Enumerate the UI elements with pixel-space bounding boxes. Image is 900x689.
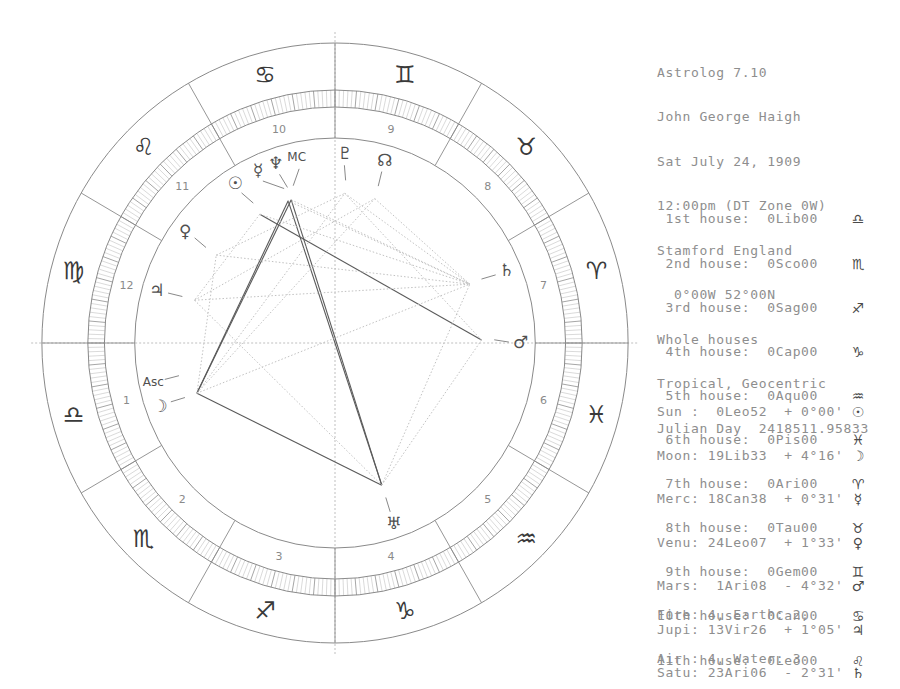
- degree-tick: [406, 567, 411, 583]
- degree-tick: [440, 553, 448, 568]
- degree-tick: [539, 224, 554, 232]
- aspect-line-semisquare: [195, 214, 260, 300]
- degree-tick: [347, 579, 348, 596]
- fire-earth-count: Fire: 4, Earth: 2,: [657, 608, 844, 623]
- degree-tick: [157, 507, 169, 519]
- degree-tick: [119, 457, 134, 465]
- degree-tick: [200, 131, 209, 145]
- degree-tick: [440, 118, 448, 133]
- aspect-line-quintile: [382, 340, 482, 485]
- degree-tick: [143, 492, 156, 503]
- venus-icon: ♀: [179, 221, 191, 241]
- taurus-icon: ♉: [516, 133, 538, 161]
- degree-tick: [517, 488, 530, 498]
- aspect-line-minor: [375, 199, 470, 285]
- leo-icon: ♌: [133, 133, 155, 161]
- libra-icon: ♎: [63, 401, 85, 429]
- ascendant-pointer-line: [165, 376, 179, 380]
- degree-tick: [146, 180, 159, 191]
- degree-tick: [170, 155, 181, 168]
- sun-icon: ☉: [850, 405, 866, 420]
- degree-tick: [263, 101, 268, 117]
- degree-tick: [363, 92, 365, 109]
- degree-tick: [123, 213, 137, 222]
- degree-tick: [474, 141, 484, 155]
- degree-tick: [133, 198, 147, 208]
- degree-tick: [565, 330, 582, 331]
- degree-tick: [447, 122, 455, 137]
- degree-tick: [130, 202, 144, 212]
- house-number-12: 12: [119, 279, 133, 292]
- aquarius-icon: ♒: [516, 525, 538, 553]
- degree-tick: [533, 213, 547, 222]
- degree-tick: [528, 205, 542, 214]
- uranus-icon: ♅: [386, 513, 401, 533]
- degree-tick: [402, 101, 407, 117]
- degree-tick: [355, 91, 356, 108]
- degree-tick: [379, 95, 382, 112]
- degree-tick: [179, 526, 189, 539]
- degree-tick: [138, 191, 151, 201]
- degree-tick: [347, 90, 348, 107]
- scorpio-icon: ♏: [850, 257, 866, 272]
- degree-tick: [130, 475, 144, 485]
- degree-tick: [166, 516, 177, 528]
- planet-row: Moon: 19Lib33 + 4°16'☽: [657, 449, 844, 464]
- degree-tick: [489, 518, 500, 531]
- pluto-icon: ♇: [337, 143, 352, 163]
- degree-tick: [91, 303, 107, 306]
- degree-tick: [489, 155, 500, 168]
- degree-tick: [537, 220, 552, 228]
- degree-tick: [461, 131, 470, 145]
- degree-tick: [509, 177, 522, 188]
- house-number-3: 3: [276, 550, 283, 563]
- degree-tick: [533, 465, 547, 474]
- degree-tick: [91, 380, 107, 383]
- degree-tick: [504, 504, 516, 516]
- house-number-5: 5: [484, 493, 491, 506]
- house-number-10: 10: [272, 123, 286, 136]
- degree-tick: [554, 265, 570, 270]
- degree-tick: [504, 170, 516, 182]
- degree-tick: [562, 384, 578, 387]
- degree-tick: [387, 573, 391, 590]
- birth-date: Sat July 24, 1909: [657, 155, 869, 170]
- degree-tick: [100, 265, 116, 270]
- degree-tick: [501, 167, 513, 179]
- degree-tick: [562, 299, 578, 302]
- degree-tick: [565, 334, 582, 335]
- degree-tick: [271, 571, 275, 587]
- degree-tick: [309, 578, 311, 595]
- degree-tick: [506, 174, 518, 185]
- jupiter-icon: ♃: [850, 623, 866, 638]
- program-title: Astrolog 7.10: [657, 66, 869, 81]
- degree-tick: [223, 118, 231, 133]
- degree-tick: [561, 295, 577, 298]
- house-text: 3rd house: 0Sag00: [657, 300, 818, 315]
- planet-row: Merc: 18Can38 + 0°31'☿: [657, 492, 844, 507]
- degree-tick: [406, 102, 411, 118]
- degree-tick: [443, 551, 451, 566]
- degree-tick: [138, 485, 151, 495]
- degree-tick: [524, 198, 538, 208]
- degree-tick: [498, 510, 510, 522]
- degree-tick: [509, 498, 522, 509]
- degree-tick: [93, 392, 109, 396]
- degree-tick: [179, 146, 189, 159]
- degree-tick: [559, 400, 575, 404]
- degree-tick: [514, 492, 527, 503]
- degree-tick: [292, 575, 295, 592]
- mars-icon: ♂: [513, 332, 528, 352]
- degree-tick: [399, 570, 404, 586]
- degree-tick: [148, 177, 161, 188]
- degree-tick: [318, 578, 319, 595]
- degree-tick: [480, 146, 490, 159]
- degree-tick: [454, 126, 463, 141]
- pisces-icon: ♓: [586, 401, 608, 429]
- degree-tick: [95, 400, 111, 404]
- degree-tick: [563, 308, 579, 310]
- degree-tick: [170, 518, 181, 531]
- degree-tick: [565, 351, 582, 352]
- mercury-icon: ☿: [850, 492, 866, 507]
- planet-text: Venu: 24Leo07 + 1°33': [657, 535, 844, 550]
